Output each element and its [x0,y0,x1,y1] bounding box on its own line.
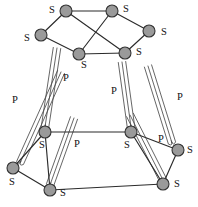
label-p-mid-right: P [111,85,117,96]
label-s-upper-right: S [161,26,167,37]
label-s-upper-left: S [24,32,30,43]
node-outer-lower-right[interactable] [172,144,184,156]
hairpin-inner-right-strand [133,113,166,181]
label-p-far-left: P [12,94,18,105]
series-parallel-graph-diagram: SSSSSSSSSSSSPPPPPP [0,0,198,207]
hairpin-inner-left-strand [50,119,77,187]
graph-canvas: SSSSSSSSSSSSPPPPPP [0,0,198,207]
label-s-bottom-left: S [60,187,66,198]
label-s-inner-top-right: S [136,46,142,57]
label-s-inner-bot-right: S [124,139,130,150]
label-s-inner-top-left: S [81,59,87,70]
label-s-top-left: S [49,4,55,15]
hairpin-inner-right [127,113,167,182]
hairpin-far-right-strand [148,66,172,143]
hairpin-inner-right-strand [130,115,163,180]
hairpin-far-right-strand [152,65,176,144]
hairpin-inner-left-strand [50,118,74,185]
node-inner-top-left[interactable] [73,48,85,60]
hairpin-mid-left-strand [41,47,53,128]
hairpin-inner-left-strand [46,117,70,186]
node-outer-top-left[interactable] [60,5,72,17]
edge-bottom [50,184,163,190]
label-s-top-right: S [123,3,129,14]
node-inner-top-right[interactable] [119,47,131,59]
edge-top-right-inner [79,11,112,54]
label-p-inner-right: P [158,133,164,144]
node-outer-upper-left[interactable] [35,29,47,41]
node-outer-bottom-left[interactable] [44,184,56,196]
hairpin-far-left [17,70,65,165]
node-outer-upper-right[interactable] [143,25,155,37]
node-outer-lower-left[interactable] [7,162,19,174]
label-p-inner-bottom: P [74,138,80,149]
label-s-lower-right: S [187,144,193,155]
node-inner-bottom-right[interactable] [125,126,137,138]
nodes-layer [7,5,184,196]
node-outer-bottom-right[interactable] [157,178,169,190]
label-s-bottom-right: S [174,178,180,189]
label-s-lower-left: S [9,176,15,187]
label-p-mid-left: P [63,72,69,83]
hairpin-mid-right-strand [118,63,131,129]
node-outer-top-right[interactable] [106,5,118,17]
label-p-far-right: P [177,91,183,102]
edge-inner-top [79,53,125,54]
hairpin-mid-left-strand [45,49,61,129]
label-s-inner-bot-left: S [39,139,45,150]
hairpin-inner-left [46,117,77,187]
node-inner-bottom-left[interactable] [39,126,51,138]
